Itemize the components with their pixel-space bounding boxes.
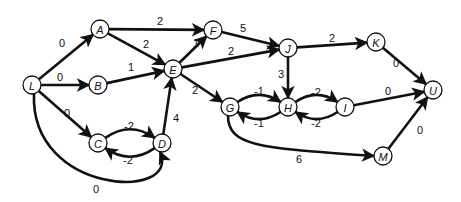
edge-weight-H-I: -2 xyxy=(311,86,321,98)
node-label: D xyxy=(158,138,166,150)
edge-weight-L-C: 0 xyxy=(64,107,70,119)
edge-M-U xyxy=(388,97,427,149)
node-I: I xyxy=(336,98,354,116)
node-M: M xyxy=(374,147,392,165)
edge-weight-E-F: 1 xyxy=(193,37,199,49)
edge-B-E xyxy=(107,71,164,83)
node-B: B xyxy=(89,76,107,94)
edge-weight-A-F: 2 xyxy=(157,15,163,27)
node-label: I xyxy=(343,102,346,114)
node-label: M xyxy=(378,151,388,163)
edge-weight-A-E: 2 xyxy=(143,38,149,50)
node-label: B xyxy=(94,80,101,92)
node-D: D xyxy=(153,134,171,152)
node-L: L xyxy=(23,76,41,94)
node-label: H xyxy=(284,102,292,114)
edge-weight-I-H: -2 xyxy=(311,117,321,129)
edge-weight-J-H: 3 xyxy=(278,68,284,80)
edge-weight-E-J: 2 xyxy=(228,45,234,57)
edge-A-E xyxy=(108,33,165,64)
edge-A-F xyxy=(109,29,204,30)
node-label: J xyxy=(284,43,291,55)
edge-weight-C-D: -2 xyxy=(124,120,134,132)
node-F: F xyxy=(204,21,222,39)
edge-G-M xyxy=(228,116,374,156)
edge-weight-G-M: 6 xyxy=(296,153,302,165)
edge-E-G xyxy=(180,74,222,102)
node-H: H xyxy=(279,98,297,116)
edge-weight-E-G: 2 xyxy=(192,84,198,96)
edge-weight-K-U: 0 xyxy=(393,57,399,69)
directed-graph: 0000221-2-241225230-1-1-2-2060 LABCDEFJK… xyxy=(0,0,461,202)
node-J: J xyxy=(279,39,297,57)
node-label: A xyxy=(95,24,103,36)
node-K: K xyxy=(367,33,385,51)
edge-weight-D-E: 4 xyxy=(173,112,179,124)
node-C: C xyxy=(89,134,107,152)
node-label: G xyxy=(226,102,235,114)
edge-weight-F-J: 5 xyxy=(240,22,246,34)
edge-L-A xyxy=(39,35,93,80)
edge-weight-I-U: 0 xyxy=(385,85,391,97)
edge-weight-L-D: 0 xyxy=(93,183,99,195)
edge-F-J xyxy=(222,32,279,46)
edge-weight-L-B: 0 xyxy=(57,71,63,83)
node-E: E xyxy=(164,60,182,78)
edge-weight-M-U: 0 xyxy=(417,124,423,136)
node-G: G xyxy=(221,98,239,116)
edge-weight-B-E: 1 xyxy=(128,61,134,73)
node-label: L xyxy=(29,80,35,92)
node-label: C xyxy=(94,138,102,150)
edge-weight-L-A: 0 xyxy=(59,37,65,49)
edge-weight-H-G: -1 xyxy=(254,117,264,129)
edge-weight-D-C: -2 xyxy=(123,154,133,166)
node-label: K xyxy=(372,37,380,49)
node-label: U xyxy=(429,85,437,97)
edge-weight-J-K: 2 xyxy=(329,32,335,44)
node-U: U xyxy=(424,81,442,99)
edge-weight-G-H: -1 xyxy=(254,85,264,97)
edge-K-U xyxy=(383,48,426,84)
node-A: A xyxy=(91,20,109,38)
node-label: E xyxy=(169,64,177,76)
edge-D-E xyxy=(163,78,171,134)
